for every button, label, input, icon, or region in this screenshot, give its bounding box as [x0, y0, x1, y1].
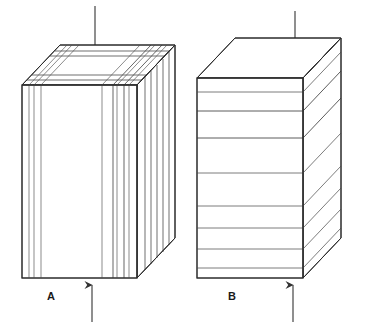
- laminated-block-diagram: A: [0, 0, 376, 325]
- panel-label-b: B: [228, 290, 236, 302]
- block-a: [22, 40, 180, 278]
- block-b-side-face: [303, 38, 341, 278]
- block-b: [197, 38, 341, 278]
- panel-label-a: A: [47, 290, 55, 302]
- figure-root: A: [0, 0, 376, 325]
- block-a-front-face: [22, 85, 137, 278]
- block-b-front-face: [197, 78, 303, 278]
